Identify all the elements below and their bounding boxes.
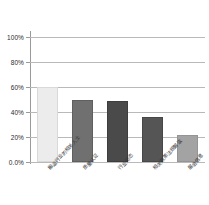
y-axis-tick	[26, 62, 30, 63]
y-axis-tick-label: 60%	[11, 84, 24, 91]
bar	[72, 100, 93, 163]
y-axis-tick-label: 40%	[11, 109, 24, 116]
bar-chart: 0.0%20%40%60%80%100% 搬运行业的相关人士质量认证行业动态相关…	[0, 0, 209, 205]
y-axis-tick-label: 100%	[7, 34, 24, 41]
y-axis-tick	[26, 87, 30, 88]
y-axis-tick	[26, 162, 30, 163]
bar	[37, 87, 58, 162]
gridline: 80%	[30, 62, 205, 63]
y-axis-tick	[26, 37, 30, 38]
y-axis-tick	[26, 112, 30, 113]
y-axis-tick-label: 20%	[11, 134, 24, 141]
y-axis-tick-label: 0.0%	[9, 159, 24, 166]
y-axis-tick	[26, 137, 30, 138]
y-axis-tick-label: 80%	[11, 59, 24, 66]
gridline: 100%	[30, 37, 205, 38]
bar	[107, 101, 128, 162]
